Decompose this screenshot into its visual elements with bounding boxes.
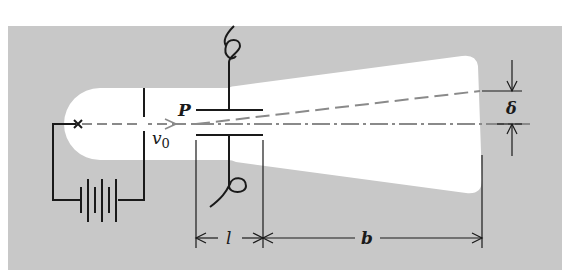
crt-diagram: l b δ P v0	[0, 0, 575, 280]
label-plate-length: l	[226, 228, 231, 248]
label-distance-to-screen: b	[361, 228, 373, 248]
label-plate: P	[177, 100, 192, 120]
anode-gap	[140, 117, 148, 131]
label-deflection: δ	[505, 99, 517, 118]
